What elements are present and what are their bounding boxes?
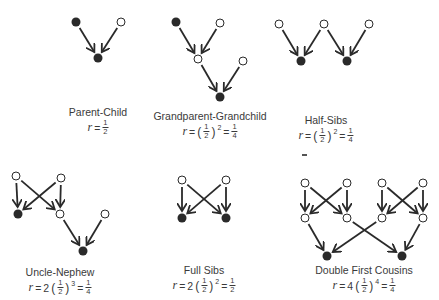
fraction-result: 14 <box>231 123 237 140</box>
relative-node-filled <box>216 93 225 102</box>
relative-node-filled <box>94 54 103 63</box>
ancestor-node-open <box>239 57 247 65</box>
ancestor-node-open <box>320 20 328 28</box>
fraction-half: 12 <box>361 277 367 294</box>
half-sibs-diagram <box>283 30 366 55</box>
fraction-half: 12 <box>57 279 63 296</box>
exponent: 2 <box>215 278 219 285</box>
coefficient: 4 <box>347 280 353 292</box>
fraction-result: 14 <box>347 127 353 144</box>
paren-open: ( <box>195 279 199 293</box>
equals: = <box>179 280 185 292</box>
fraction-half: 12 <box>102 119 108 136</box>
r-symbol: r <box>172 278 177 293</box>
ancestor-node-open <box>56 210 64 218</box>
parent-child-diagram <box>80 28 118 52</box>
r-symbol: r <box>28 280 33 295</box>
ancestor-node-open <box>194 55 202 63</box>
exponent: 3 <box>71 280 75 287</box>
descent-arrow <box>202 65 217 91</box>
descent-arrow <box>21 181 54 210</box>
r-symbol: r <box>298 128 303 143</box>
descent-arrow <box>202 29 217 53</box>
descent-arrow <box>80 28 95 52</box>
descent-arrow <box>351 30 366 55</box>
descent-arrow <box>60 185 61 207</box>
coefficient: 2 <box>43 282 49 294</box>
descent-arrow <box>16 183 17 207</box>
paren-open: ( <box>355 279 359 293</box>
fraction-half: 12 <box>319 127 325 144</box>
relative-node-filled <box>178 214 187 223</box>
descent-arrow <box>405 224 419 250</box>
ancestor-node-open <box>378 214 386 222</box>
paren-close: ) <box>65 281 69 295</box>
double-first-cousins-diagram <box>305 187 423 252</box>
fraction-result: 14 <box>85 279 91 296</box>
ancestor-node-open <box>216 19 224 27</box>
relative-node-filled <box>72 18 81 27</box>
fraction-result: 12 <box>229 277 235 294</box>
relative-node-filled <box>297 57 306 66</box>
ancestor-node-open <box>117 18 125 26</box>
descent-arrow <box>333 222 376 252</box>
descent-arrow <box>305 30 321 55</box>
descent-arrow <box>328 30 344 55</box>
paren-close: ) <box>209 279 213 293</box>
relative-node-filled <box>172 18 181 27</box>
descent-arrow <box>283 30 298 55</box>
fraction-result: 14 <box>389 277 395 294</box>
ancestor-node-open <box>57 174 65 182</box>
half-sibs-formula: r = ( 12 ) 2 = 14 <box>298 127 353 144</box>
ancestor-node-open <box>275 20 283 28</box>
ancestor-node-open <box>12 172 20 180</box>
descent-arrow <box>102 28 117 52</box>
equals: = <box>381 280 387 292</box>
pedigree-diagrams <box>0 0 439 300</box>
descent-arrow <box>309 224 324 250</box>
r-symbol: r <box>332 278 337 293</box>
equals: = <box>94 122 100 134</box>
relative-node-filled <box>14 210 23 219</box>
ancestor-node-open <box>343 214 351 222</box>
ancestor-node-open <box>365 20 373 28</box>
relative-node-filled <box>323 252 332 261</box>
paren-close: ) <box>369 279 373 293</box>
ancestor-node-open <box>101 210 109 218</box>
stray-mark <box>302 154 307 156</box>
descent-arrow <box>224 67 239 91</box>
fraction-half: 12 <box>201 277 207 294</box>
ancestor-node-open <box>178 176 186 184</box>
paren-close: ) <box>327 129 331 143</box>
equals: = <box>221 280 227 292</box>
descent-arrow <box>64 220 80 245</box>
grandparent-grandchild-formula: r = ( 12 ) 2 = 14 <box>182 123 237 140</box>
exponent: 2 <box>217 124 221 131</box>
ancestor-node-open <box>419 214 427 222</box>
equals: = <box>77 282 83 294</box>
r-symbol: r <box>182 124 187 139</box>
uncle-nephew-title: Uncle-Nephew <box>26 266 95 278</box>
grandparent-grandchild-title: Grandparent-Grandchild <box>153 110 266 122</box>
exponent: 2 <box>333 128 337 135</box>
fraction-half: 12 <box>203 123 209 140</box>
ancestor-node-open <box>343 179 351 187</box>
half-sibs-title: Half-Sibs <box>305 114 348 126</box>
relative-node-filled <box>343 57 352 66</box>
relative-node-filled <box>79 247 88 256</box>
relative-node-filled <box>398 252 407 261</box>
ancestor-node-open <box>419 179 427 187</box>
full-sibs-formula: r = 2 ( 12 ) 2 = 12 <box>172 277 235 294</box>
descent-arrow <box>87 220 102 245</box>
equals: = <box>339 130 345 142</box>
coefficient: 2 <box>187 280 193 292</box>
paren-open: ( <box>313 129 317 143</box>
relative-node-filled <box>222 214 231 223</box>
full-sibs-diagram <box>182 185 226 214</box>
equals: = <box>35 282 41 294</box>
ancestor-node-open <box>222 176 230 184</box>
ancestor-node-open <box>301 179 309 187</box>
parent-child-formula: r = 12 <box>88 119 109 136</box>
uncle-nephew-formula: r = 2 ( 12 ) 3 = 14 <box>28 279 91 296</box>
paren-close: ) <box>211 125 215 139</box>
